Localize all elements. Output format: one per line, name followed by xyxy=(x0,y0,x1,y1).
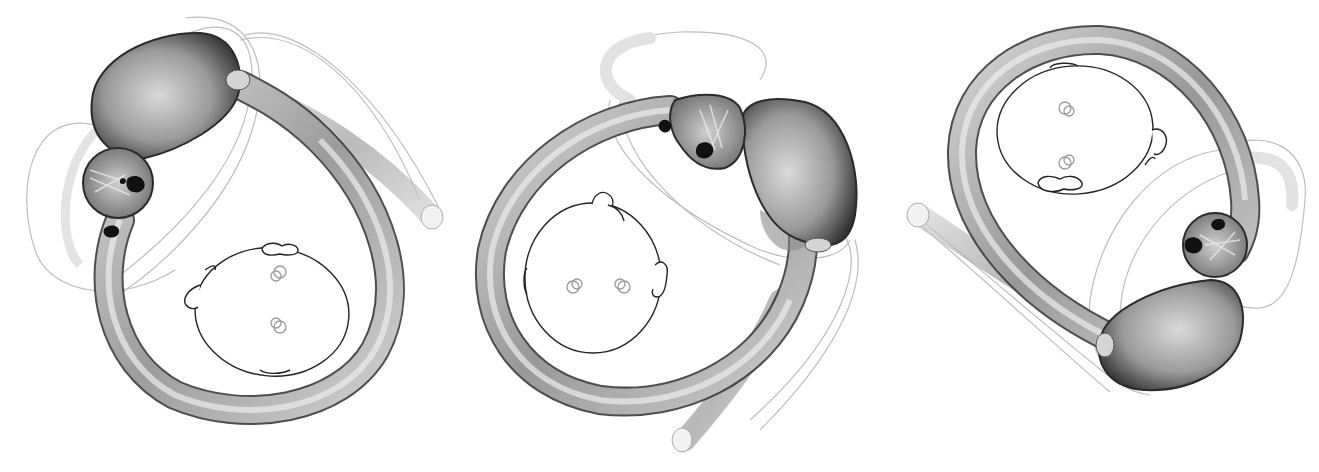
utricle-sac xyxy=(742,99,857,245)
canal-illustration-left xyxy=(0,0,460,472)
utricle-sac xyxy=(92,33,241,158)
head-outline xyxy=(524,192,667,353)
canal-illustration-center xyxy=(460,0,900,472)
head-outline xyxy=(185,240,356,383)
figure: View 1: canal loop with ampulla upper-le… xyxy=(0,0,1319,472)
canal-illustration-right xyxy=(890,0,1319,472)
head-outline xyxy=(993,61,1167,200)
panel-right: View 3: canal loop with ampulla lower-ri… xyxy=(890,0,1319,472)
panel-left: View 1: canal loop with ampulla upper-le… xyxy=(0,0,460,472)
panel-center: View 2: canal loop with ampulla upper-ri… xyxy=(460,0,900,472)
utricle-sac xyxy=(1099,280,1243,390)
